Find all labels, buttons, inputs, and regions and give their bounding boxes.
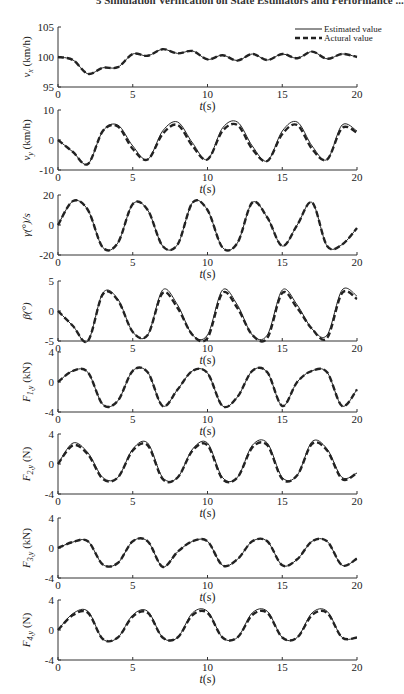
x-axis-label: t(s)	[199, 590, 215, 604]
series-estimated-line	[58, 538, 357, 567]
x-tick-label: 20	[352, 661, 364, 673]
x-tick-label: 5	[130, 413, 136, 425]
y-axis-label: vy (km/h)	[20, 119, 35, 160]
y-tick-label: 4	[49, 594, 55, 606]
y-tick-label: 0	[49, 458, 55, 470]
x-axis-label: t(s)	[199, 267, 215, 281]
y-tick-label: 4	[49, 346, 55, 358]
x-tick-label: 5	[130, 88, 136, 100]
x-axis-label: t(s)	[199, 672, 215, 686]
y-tick-label: -4	[45, 488, 55, 500]
series-estimated-line	[58, 200, 357, 250]
x-tick-label: 15	[277, 579, 289, 591]
x-axis-label: t(s)	[199, 99, 215, 113]
y-tick-label: 0	[49, 134, 55, 146]
x-axis-label: t(s)	[199, 353, 215, 367]
x-tick-label: 5	[130, 256, 136, 268]
series-estimated-line	[58, 440, 357, 482]
subplot-5: -40405101520t(s)F1,y (kN)	[20, 346, 363, 438]
y-tick-label: -10	[39, 164, 54, 176]
legend: Estimated valueActural value	[295, 24, 382, 43]
axes-frame	[58, 27, 357, 87]
axes-frame	[58, 600, 357, 660]
y-tick-label: 20	[43, 189, 55, 201]
x-tick-label: 15	[277, 256, 289, 268]
x-axis-label: t(s)	[199, 424, 215, 438]
x-tick-label: 0	[55, 495, 61, 507]
x-tick-label: 15	[277, 171, 289, 183]
y-tick-label: 0	[49, 542, 55, 554]
x-tick-label: 0	[55, 579, 61, 591]
series-actual-line	[58, 611, 357, 642]
subplot-1: 9510010505101520t(s)vx (km/h)	[20, 21, 363, 113]
x-tick-label: 20	[352, 171, 364, 183]
x-tick-label: 20	[352, 579, 364, 591]
series-estimated-line	[58, 49, 357, 74]
x-tick-label: 20	[352, 342, 364, 354]
series-estimated-line	[58, 368, 357, 408]
y-axis-label: F2,y (N)	[20, 447, 35, 483]
x-tick-label: 20	[352, 495, 364, 507]
y-tick-label: -4	[45, 572, 55, 584]
y-axis-label: γ(°)/s	[20, 213, 33, 236]
series-actual-line	[58, 442, 357, 482]
x-tick-label: 20	[352, 256, 364, 268]
y-axis-label: vx (km/h)	[20, 36, 35, 77]
x-tick-label: 5	[130, 171, 136, 183]
x-tick-label: 20	[352, 413, 364, 425]
x-tick-label: 5	[130, 579, 136, 591]
subplot-4: -50505101520t(s)β(°)	[20, 275, 363, 367]
axes-frame	[58, 281, 357, 341]
subplot-7: -40405101520t(s)F3,y (kN)	[20, 512, 363, 604]
y-tick-label: 10	[43, 104, 55, 116]
x-tick-label: 15	[277, 413, 289, 425]
y-tick-label: 0	[49, 376, 55, 388]
x-tick-label: 15	[277, 342, 289, 354]
x-tick-label: 15	[277, 495, 289, 507]
y-axis-label: F1,y (kN)	[20, 362, 35, 403]
y-tick-label: 5	[49, 275, 55, 287]
subplot-2: -1001005101520t(s)vy (km/h)	[20, 104, 363, 196]
x-tick-label: 15	[277, 88, 289, 100]
x-tick-label: 0	[55, 661, 61, 673]
subplot-6: -40405101520t(s)F2,y (N)	[20, 428, 363, 520]
y-tick-label: 0	[49, 219, 55, 231]
axes-frame	[58, 110, 357, 170]
x-tick-label: 0	[55, 256, 61, 268]
subplot-3: -2002005101520t(s)γ(°)/s	[20, 189, 363, 281]
y-tick-label: 0	[49, 624, 55, 636]
series-actual-line	[58, 124, 357, 165]
series-actual-line	[58, 49, 357, 74]
y-tick-label: -4	[45, 654, 55, 666]
y-tick-label: 105	[38, 21, 55, 33]
axes-frame	[58, 518, 357, 578]
x-tick-label: 0	[55, 413, 61, 425]
y-tick-label: 4	[49, 512, 55, 524]
y-axis-label: β(°)	[20, 302, 33, 321]
x-tick-label: 20	[352, 88, 364, 100]
y-tick-label: -20	[39, 249, 54, 261]
y-tick-label: -4	[45, 406, 55, 418]
series-actual-line	[58, 538, 357, 567]
x-tick-label: 15	[277, 661, 289, 673]
x-axis-label: t(s)	[199, 506, 215, 520]
legend-label: Actural value	[324, 33, 373, 43]
y-tick-label: 95	[43, 81, 55, 93]
x-tick-label: 0	[55, 88, 61, 100]
y-tick-label: 0	[49, 305, 55, 317]
x-tick-label: 5	[130, 661, 136, 673]
series-actual-line	[58, 200, 357, 250]
x-axis-label: t(s)	[199, 182, 215, 196]
x-tick-label: 5	[130, 342, 136, 354]
x-tick-label: 5	[130, 495, 136, 507]
y-axis-label: F4,y (N)	[20, 613, 35, 649]
subplot-8: -40405101520t(s)F4,y (N)	[20, 594, 363, 686]
y-axis-label: F3,y (kN)	[20, 528, 35, 569]
x-tick-label: 0	[55, 171, 61, 183]
y-tick-label: 100	[38, 51, 55, 63]
y-tick-label: 4	[49, 428, 55, 440]
